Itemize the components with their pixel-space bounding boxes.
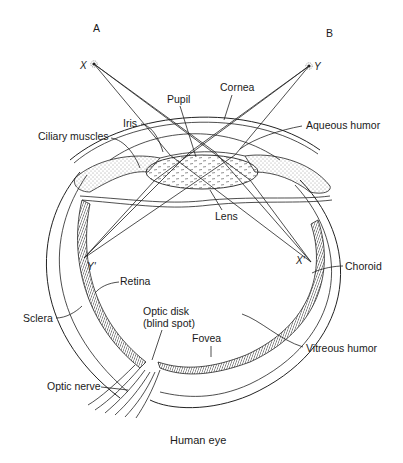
- pupil-label: Pupil: [167, 93, 190, 105]
- sclera-label: Sclera: [23, 312, 53, 324]
- viewpoint-b-label: B: [326, 27, 333, 39]
- human-eye-diagram: A B X Y Y' X': [0, 0, 403, 463]
- optic-disk-label: Optic disk: [143, 305, 190, 317]
- lens: [146, 155, 258, 189]
- optic-nerve-label: Optic nerve: [47, 380, 101, 392]
- diagram-caption: Human eye: [170, 434, 226, 446]
- point-y-prime-label: Y': [87, 261, 97, 272]
- blind-spot-label: (blind spot): [143, 317, 195, 329]
- aqueous-humor-label: Aqueous humor: [306, 119, 381, 131]
- viewpoint-a-label: A: [93, 22, 100, 34]
- fovea-label: Fovea: [192, 332, 221, 344]
- vitreous-humor-label: Vitreous humor: [306, 342, 378, 354]
- lens-label: Lens: [215, 210, 238, 222]
- retina-band-right: [158, 220, 324, 374]
- retina-label: Retina: [120, 275, 151, 287]
- cornea-label: Cornea: [220, 81, 255, 93]
- point-x-label: X: [79, 60, 87, 71]
- sclera-inner: [59, 175, 331, 396]
- point-x-prime-label: X': [295, 255, 306, 266]
- point-y-label: Y: [314, 61, 322, 72]
- iris-label: Iris: [123, 117, 137, 129]
- choroid-label: Choroid: [345, 260, 382, 272]
- ciliary-muscles-label: Ciliary muscles: [38, 130, 109, 142]
